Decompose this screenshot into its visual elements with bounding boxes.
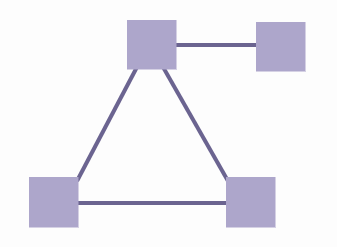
node-top-right[interactable] — [256, 22, 305, 71]
node-top[interactable] — [127, 20, 176, 69]
graph-svg — [0, 0, 337, 247]
node-bottom-left[interactable] — [29, 177, 78, 227]
diagram-canvas — [0, 0, 337, 247]
node-bottom-right[interactable] — [226, 177, 275, 227]
